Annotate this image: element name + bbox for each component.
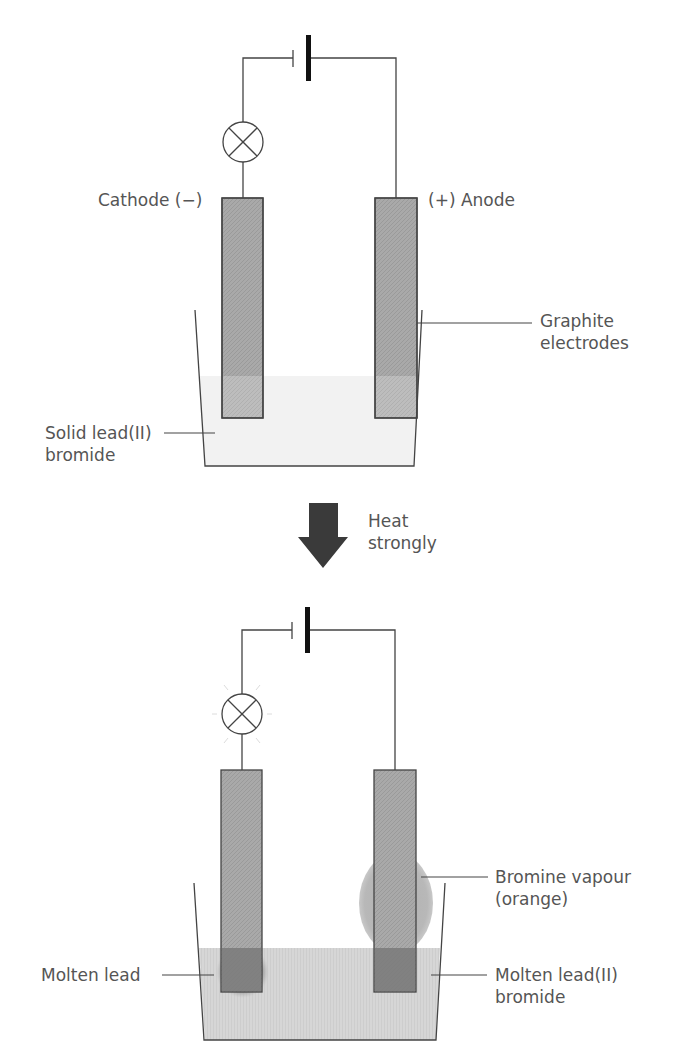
bottom-apparatus [162,607,488,1040]
bottom-battery-icon [292,607,310,653]
solid-label-line2: bromide [45,444,152,466]
top-circuit-wire [243,58,396,198]
heat-down-arrow-icon [298,503,348,568]
solid-label-line1: Solid lead(II) [45,422,152,444]
molten-bromide-label-line1: Molten lead(II) [495,964,618,986]
bottom-lit-bulb-icon [212,685,272,743]
bottom-anode-electrode [374,770,416,992]
molten-lead-label: Molten lead [41,964,141,986]
top-apparatus [164,35,532,466]
bromine-vapour-label: Bromine vapour (orange) [495,866,631,910]
top-anode-electrode [375,198,417,418]
bromine-label-line1: Bromine vapour [495,866,631,888]
top-cathode-electrode [222,198,263,418]
graphite-label-line1: Graphite [540,310,629,332]
top-battery-icon [293,35,311,81]
molten-bromide-label-line2: bromide [495,986,618,1008]
heat-label-line1: Heat [368,510,437,532]
molten-lead-bromide-label: Molten lead(II) bromide [495,964,618,1008]
top-bulb-icon [223,122,263,162]
solid-lead-bromide-label: Solid lead(II) bromide [45,422,152,466]
bromine-label-line2: (orange) [495,888,631,910]
anode-label: (+) Anode [428,189,515,211]
heat-strongly-label: Heat strongly [368,510,437,554]
cathode-label: Cathode (−) [98,189,202,211]
graphite-label-line2: electrodes [540,332,629,354]
bottom-circuit-wire [242,630,395,770]
graphite-electrodes-label: Graphite electrodes [540,310,629,354]
heat-label-line2: strongly [368,532,437,554]
bottom-cathode-electrode [221,770,262,992]
